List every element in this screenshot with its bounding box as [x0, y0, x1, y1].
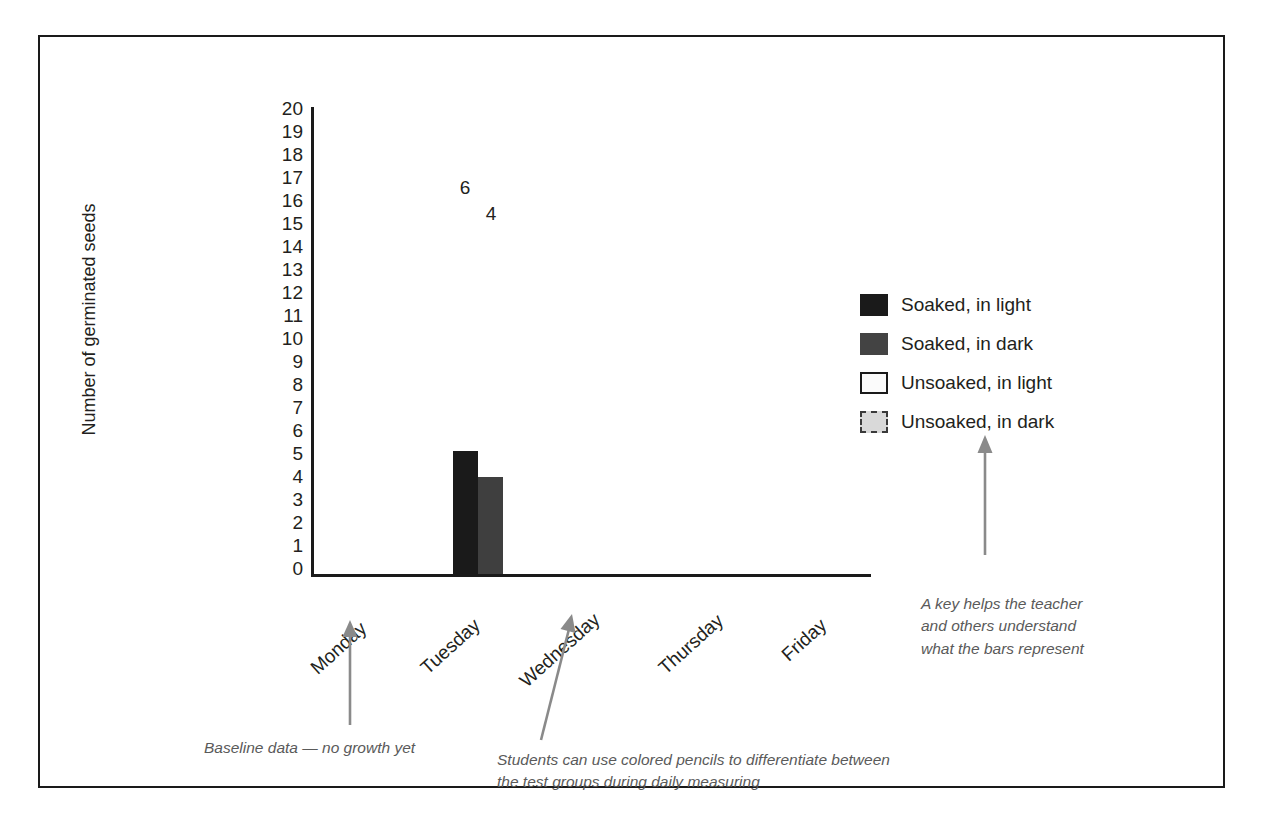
y-tick: 17: [270, 168, 303, 187]
legend-item-soaked-in-dark[interactable]: Soaked, in dark: [860, 331, 1054, 357]
arrow-to-legend: [965, 432, 1005, 557]
legend-item-soaked-in-light[interactable]: Soaked, in light: [860, 292, 1054, 318]
bar-group-tuesday: 6 4: [453, 107, 553, 574]
legend-item-label: Soaked, in dark: [901, 333, 1033, 355]
y-tick: 15: [270, 214, 303, 233]
bar-value-label: 4: [476, 203, 506, 225]
annotation-pencils: Students can use colored pencils to diff…: [497, 749, 890, 794]
y-tick: 10: [270, 329, 303, 348]
legend-item-label: Soaked, in light: [901, 294, 1031, 316]
y-tick: 9: [270, 352, 303, 371]
annotation-key: A key helps the teacher and others under…: [921, 593, 1084, 660]
y-axis-title: Number of germinated seeds: [79, 175, 100, 465]
y-tick: 13: [270, 260, 303, 279]
y-tick: 3: [270, 490, 303, 509]
y-tick: 1: [270, 536, 303, 555]
y-tick: 19: [270, 122, 303, 141]
y-tick: 7: [270, 398, 303, 417]
legend-swatch-icon: [860, 372, 888, 394]
x-tick-label-friday: Friday: [777, 614, 831, 666]
y-tick: 14: [270, 237, 303, 256]
arrow-to-wednesday: [527, 607, 587, 742]
legend-item-label: Unsoaked, in light: [901, 372, 1052, 394]
y-tick: 18: [270, 145, 303, 164]
bar-soaked-in-light: [453, 451, 478, 574]
y-tick: 11: [270, 306, 303, 325]
x-tick-label-tuesday: Tuesday: [416, 614, 484, 679]
chart-frame: Number of germinated seeds 20 19 18 17 1…: [38, 35, 1225, 788]
legend-swatch-icon: [860, 294, 888, 316]
plot-area: Number of germinated seeds 20 19 18 17 1…: [40, 37, 1223, 786]
bar-value-label: 6: [450, 177, 480, 199]
x-tick-label-thursday: Thursday: [654, 610, 728, 679]
y-tick: 5: [270, 444, 303, 463]
annotation-baseline: Baseline data — no growth yet: [204, 737, 415, 759]
y-tick: 4: [270, 467, 303, 486]
y-tick: 6: [270, 421, 303, 440]
y-tick: 2: [270, 513, 303, 532]
legend-item-unsoaked-in-dark[interactable]: Unsoaked, in dark: [860, 409, 1054, 435]
legend-swatch-icon: [860, 411, 888, 433]
y-axis-line: [311, 107, 314, 577]
y-tick: 16: [270, 191, 303, 210]
y-axis-tick-labels: 20 19 18 17 16 15 14 13 12 11 10 9 8 7 6…: [270, 37, 303, 829]
bar-soaked-in-dark: [478, 477, 503, 574]
y-tick: 12: [270, 283, 303, 302]
y-tick: 0: [270, 559, 303, 578]
y-tick: 8: [270, 375, 303, 394]
y-tick: 20: [270, 99, 303, 118]
legend-swatch-icon: [860, 333, 888, 355]
arrow-to-monday: [330, 617, 370, 727]
legend: Soaked, in light Soaked, in dark Unsoake…: [860, 292, 1054, 448]
legend-item-label: Unsoaked, in dark: [901, 411, 1054, 433]
x-axis-line: [311, 574, 871, 577]
legend-item-unsoaked-in-light[interactable]: Unsoaked, in light: [860, 370, 1054, 396]
